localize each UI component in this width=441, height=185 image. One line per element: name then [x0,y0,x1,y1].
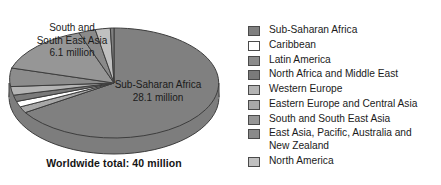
legend-swatch-icon [248,41,260,51]
legend-item-label: Caribbean [269,39,316,52]
legend-item-label: East Asia, Pacific, Australia and New Ze… [269,127,412,152]
legend-swatch-icon [248,56,260,66]
legend-list: Sub-Saharan AfricaCaribbeanLatin America… [248,24,441,167]
legend-item: Latin America [248,54,441,67]
legend-item-label: Western Europe [269,83,342,96]
legend-item-label: North Africa and Middle East [269,68,398,81]
pie-svg [0,0,228,160]
legend-swatch-icon [248,70,260,80]
figure-root: South and South East Asia 6.1 million Su… [0,0,441,185]
legend-swatch-icon [248,85,260,95]
legend-swatch-icon [248,115,260,125]
legend-item: Sub-Saharan Africa [248,24,441,37]
legend-swatch-icon [248,157,260,167]
legend-swatch-icon [248,26,260,36]
legend-item: East Asia, Pacific, Australia and New Ze… [248,127,441,152]
legend-item: North America [248,155,441,168]
legend-item: South and South East Asia [248,113,441,126]
pie-slices [10,28,219,138]
legend-item-label: Eastern Europe and Central Asia [269,98,417,111]
legend-item-label: Sub-Saharan Africa [269,24,357,37]
pie-chart-graphic [0,0,228,160]
legend-swatch-icon [248,100,260,110]
legend-swatch-icon [248,129,260,139]
worldwide-total-caption: Worldwide total: 40 million [0,157,228,169]
legend-item-label: Latin America [269,54,331,67]
legend-item: North Africa and Middle East [248,68,441,81]
legend-item-label: North America [269,155,334,168]
legend-item-label: South and South East Asia [269,113,390,126]
legend-item: Caribbean [248,39,441,52]
legend-item: Western Europe [248,83,441,96]
legend-panel: Sub-Saharan AfricaCaribbeanLatin America… [228,0,441,185]
legend-item: Eastern Europe and Central Asia [248,98,441,111]
pie-chart-panel: South and South East Asia 6.1 million Su… [0,0,228,185]
